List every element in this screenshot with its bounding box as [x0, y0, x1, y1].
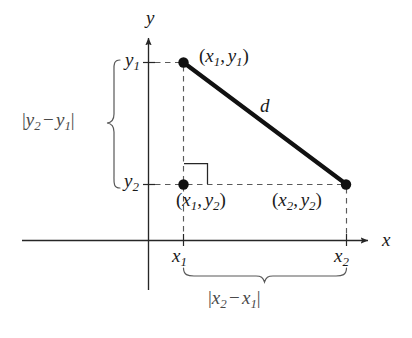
vertical-brace-label: |y2−y1|	[22, 110, 75, 133]
paren-close: )	[243, 45, 249, 66]
coord-y-var: y	[301, 189, 309, 210]
minus-sign: −	[43, 109, 54, 130]
coord-comma: ,	[293, 189, 298, 210]
y2-subscript: 2	[132, 179, 138, 194]
abs-bar-close: |	[71, 109, 75, 130]
minus-sign: −	[229, 287, 240, 308]
point-label-upper-left: (x1,y1)	[199, 46, 249, 69]
coord-x-var: x	[182, 189, 190, 210]
point-label-right-angle-corner: (x1,y2)	[176, 190, 226, 213]
x1-subscript: 1	[180, 254, 186, 269]
coord-x-var: x	[278, 189, 286, 210]
point-label-lower-right: (x2,y2)	[272, 190, 322, 213]
y-axis-label: y	[146, 8, 154, 27]
distance-formula-figure: y x y1 y2 x1 x2 (x1,y1) (x1,y2) (x2,y2) …	[0, 0, 412, 338]
term-a-sub: 2	[34, 118, 40, 133]
term-a-sub: 2	[220, 296, 226, 311]
paren-close: )	[316, 189, 322, 210]
point-lower-right	[341, 179, 351, 189]
abs-bar-close: |	[257, 287, 261, 308]
vertical-brace	[107, 60, 120, 188]
tick-marks	[143, 63, 347, 247]
horizontal-brace-label: |x2−x1|	[208, 288, 261, 311]
x2-tick-label: x2	[334, 246, 349, 269]
coord-y-var: y	[205, 189, 213, 210]
y2-tick-label: y2	[124, 171, 139, 194]
x2-subscript: 2	[342, 254, 348, 269]
x-axis-label: x	[382, 230, 390, 249]
y1-tick-label: y1	[125, 50, 140, 73]
coord-comma: ,	[220, 45, 225, 66]
horizontal-brace	[184, 268, 347, 282]
y1-subscript: 1	[133, 58, 139, 73]
x1-tick-label: x1	[172, 246, 187, 269]
right-angle-marker	[184, 164, 208, 185]
distance-segment-label: d	[260, 96, 270, 115]
coord-x-var: x	[205, 45, 213, 66]
term-a-var: y	[26, 109, 34, 130]
paren-close: )	[220, 189, 226, 210]
coord-comma: ,	[197, 189, 202, 210]
coord-y-var: y	[228, 45, 236, 66]
term-a-var: x	[212, 287, 220, 308]
point-upper-left	[178, 57, 188, 67]
